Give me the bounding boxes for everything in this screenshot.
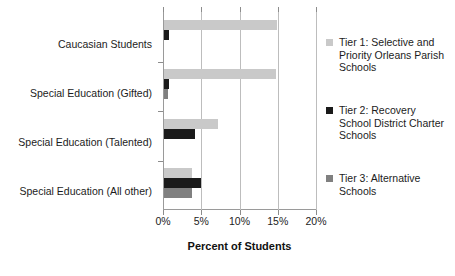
x-tick-top-5%	[201, 7, 202, 12]
bar-tier-1-cat-1	[164, 69, 276, 79]
legend-swatch-tier-3	[326, 175, 333, 182]
legend-item-tier-2[interactable]: Tier 2: Recovery School District Charter…	[326, 104, 450, 142]
x-tick-label-0%: 0%	[155, 215, 170, 227]
x-tick-top-15%	[278, 7, 279, 12]
x-tick-label-15%: 15%	[267, 215, 288, 227]
legend-swatch-tier-2	[326, 107, 333, 114]
category-label-caucasian-students: Caucasian Students	[0, 38, 152, 50]
x-tick-top-10%	[240, 7, 241, 12]
bar-tier-1-cat-0	[164, 20, 277, 30]
category-label-special-education-all-other: Special Education (All other)	[0, 185, 152, 197]
bar-tier-2-cat-1	[164, 79, 169, 89]
bar-tier-3-cat-1	[164, 89, 168, 99]
legend-item-tier-1[interactable]: Tier 1: Selective and Priority Orleans P…	[326, 36, 450, 74]
bar-tier-2-cat-0	[164, 30, 169, 40]
bar-chart: Caucasian Students Special Education (Gi…	[0, 0, 455, 276]
legend-label-tier-3: Tier 3: Alternative Schools	[339, 172, 450, 197]
gridline-10%	[240, 12, 241, 210]
category-label-special-education-gifted: Special Education (Gifted)	[0, 87, 152, 99]
bar-tier-1-cat-2	[164, 119, 218, 129]
x-axis-title: Percent of Students	[163, 240, 316, 252]
category-tick-3	[158, 161, 163, 162]
category-label-special-education-talented: Special Education (Talented)	[0, 136, 152, 148]
legend-item-tier-3[interactable]: Tier 3: Alternative Schools	[326, 172, 450, 197]
legend-swatch-tier-1	[326, 39, 333, 46]
bar-tier-1-cat-3	[164, 168, 192, 178]
legend-label-tier-2: Tier 2: Recovery School District Charter…	[339, 104, 450, 142]
x-tick-label-20%: 20%	[305, 215, 326, 227]
gridline-15%	[278, 12, 279, 210]
bar-tier-2-cat-3	[164, 178, 201, 188]
category-tick-2	[158, 111, 163, 112]
category-tick-1	[158, 62, 163, 63]
x-tick-top-0%	[163, 7, 164, 12]
x-tick-label-10%: 10%	[229, 215, 250, 227]
bar-tier-3-cat-3	[164, 188, 192, 198]
x-tick-label-5%: 5%	[194, 215, 209, 227]
gridline-20%	[316, 12, 317, 210]
legend-label-tier-1: Tier 1: Selective and Priority Orleans P…	[339, 36, 450, 74]
bar-tier-2-cat-2	[164, 129, 195, 139]
x-tick-top-20%	[316, 7, 317, 12]
plot-area	[163, 12, 316, 210]
category-axis: Caucasian Students Special Education (Gi…	[0, 12, 160, 210]
